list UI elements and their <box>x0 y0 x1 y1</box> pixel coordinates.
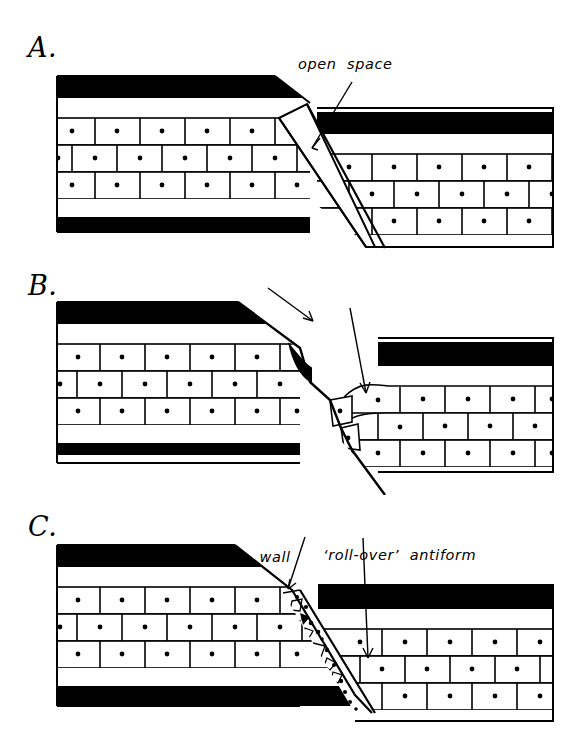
panel-a-open-space: A. <box>0 0 579 250</box>
leader-line-tectonic-erosion-left <box>288 537 305 589</box>
upper-black-bed <box>310 112 560 134</box>
panel-a-left-block <box>50 70 320 243</box>
lower-black-bed <box>50 217 320 237</box>
panel-c-tectonic-erosion: C. <box>0 495 579 749</box>
lower-white-bed <box>360 467 560 485</box>
upper-white-bed <box>57 567 360 587</box>
lower-black-bed <box>330 728 560 748</box>
upper-white-bed <box>318 609 560 629</box>
upper-black-bed <box>378 342 560 366</box>
panel-b-drag-folding: B. <box>0 250 579 495</box>
lower-white-bed <box>57 668 360 686</box>
limestone-unit <box>57 344 310 425</box>
lower-black-bed <box>57 443 310 463</box>
lower-white-bed <box>50 199 320 217</box>
panel-c-diagram <box>0 495 579 749</box>
panel-b-diagram-main <box>0 250 579 495</box>
lower-black-bed <box>57 686 360 706</box>
upper-white-bed <box>50 98 320 118</box>
upper-black-bed <box>57 302 310 324</box>
lower-black-bed <box>370 485 560 495</box>
panel-c-right-block <box>310 581 560 748</box>
upper-white-bed <box>310 134 560 154</box>
lower-white-bed <box>57 425 310 443</box>
leader-line-hanging-wall-synform <box>268 288 313 321</box>
upper-black-bed <box>318 585 560 609</box>
upper-black-bed <box>57 545 360 567</box>
geological-cross-section-figure: A. <box>0 0 579 749</box>
panel-a-right-block <box>310 100 560 250</box>
upper-white-bed <box>370 366 560 386</box>
annotation-open-space: open space <box>298 55 393 73</box>
arrowhead-tectonic-erosion-left <box>288 579 296 589</box>
panel-a-diagram <box>0 0 579 250</box>
lower-white-bed <box>318 710 560 728</box>
